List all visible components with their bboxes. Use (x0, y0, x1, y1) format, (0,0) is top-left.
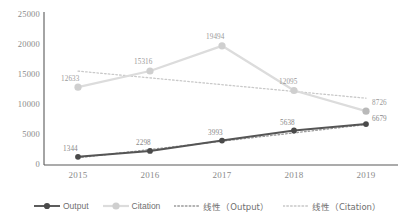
trendline-citation (78, 71, 366, 98)
dotted-line-light-icon (283, 201, 309, 211)
legend-label: Citation (132, 201, 161, 211)
chart-legend: Output Citation 线性（Output） 线性（Citation） (0, 196, 415, 216)
data-label-citation: 8726 (372, 99, 387, 107)
legend-item-trendline-output[interactable]: 线性（Output） (174, 200, 269, 212)
data-point-citation (218, 42, 225, 49)
data-label-output: 5638 (280, 119, 295, 127)
data-point-output (219, 138, 225, 144)
data-point-output (147, 148, 153, 154)
data-point-output (291, 128, 297, 134)
data-label-output: 3993 (208, 129, 223, 137)
data-point-citation (146, 67, 153, 74)
legend-label: 线性（Citation） (312, 200, 381, 212)
data-label-output: 2298 (136, 139, 151, 147)
data-point-output (363, 121, 369, 127)
data-point-citation (362, 108, 369, 115)
data-label-output: 6679 (372, 115, 387, 123)
line-chart: 25000 20000 15000 10000 5000 0 2015 2016… (0, 0, 415, 221)
legend-item-citation[interactable]: Citation (103, 201, 161, 211)
legend-label: 线性（Output） (203, 200, 269, 212)
data-label-citation: 19494 (206, 33, 224, 41)
line-marker-light-icon (103, 201, 129, 211)
data-label-citation: 15316 (134, 58, 152, 66)
dotted-line-dark-icon (174, 201, 200, 211)
data-point-citation (74, 84, 81, 91)
data-point-output (75, 154, 81, 160)
legend-label: Output (63, 201, 89, 211)
data-label-citation: 12633 (61, 75, 79, 83)
data-label-output: 1344 (63, 145, 78, 153)
legend-item-output[interactable]: Output (34, 201, 89, 211)
line-marker-dark-icon (34, 201, 60, 211)
legend-item-trendline-citation[interactable]: 线性（Citation） (283, 200, 381, 212)
series-line-citation (78, 46, 366, 111)
data-label-citation: 12095 (279, 78, 297, 86)
data-point-citation (290, 87, 297, 94)
